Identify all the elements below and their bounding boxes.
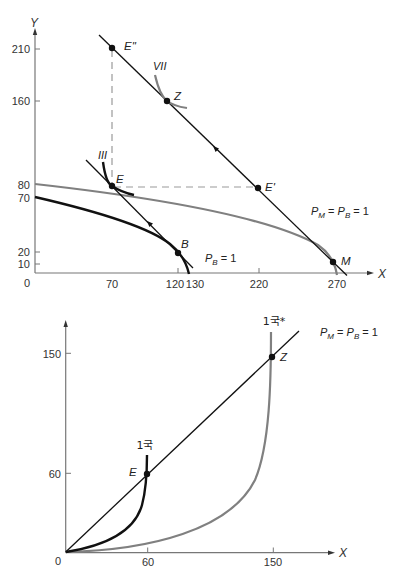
- point-b: [175, 250, 181, 256]
- point-e: [144, 471, 150, 477]
- figure-canvas: Y X 210 160 80 70 20 10 0 70 120 130 220…: [0, 0, 400, 582]
- x-tick-label: 70: [106, 278, 118, 290]
- country-1-label: 1국: [137, 439, 154, 452]
- x-tick-label: 60: [142, 556, 154, 568]
- y-tick-label: 160: [12, 95, 30, 107]
- point-e-prime: [255, 185, 261, 191]
- point-label: E': [265, 181, 276, 193]
- x-tick-label: 130: [186, 278, 204, 290]
- point-z: [164, 98, 170, 104]
- point-m: [330, 259, 336, 265]
- point-label: M: [341, 255, 351, 267]
- y-tick-label: 10: [18, 258, 30, 270]
- x-axis-label: X: [338, 546, 348, 560]
- origin-label: 0: [55, 555, 61, 567]
- point-e: [109, 183, 115, 189]
- y-tick-label: 20: [18, 246, 30, 258]
- x-axis-label: X: [377, 267, 387, 281]
- country-1-star-label: 1국*: [263, 315, 286, 328]
- y-tick-label: 60: [49, 468, 61, 480]
- y-tick-label: 210: [12, 43, 30, 55]
- y-axis-label: Y: [30, 16, 39, 30]
- origin-label: 0: [24, 277, 30, 289]
- point-label: E: [116, 173, 124, 185]
- indifference-label-iii: III: [98, 149, 107, 161]
- background: [0, 0, 400, 582]
- x-tick-label: 120: [166, 278, 184, 290]
- y-tick-label: 70: [18, 192, 30, 204]
- x-tick-label: 220: [250, 278, 268, 290]
- point-label: B: [181, 238, 189, 250]
- point-e-double-prime: [109, 45, 115, 51]
- x-tick-label: 270: [328, 278, 346, 290]
- point-z: [269, 354, 275, 360]
- point-label: Z: [279, 351, 288, 363]
- y-tick-label: 80: [18, 179, 30, 191]
- y-tick-label: 150: [43, 348, 61, 360]
- point-label: E: [129, 466, 137, 478]
- point-label: E'': [124, 40, 137, 52]
- indifference-label-vii: VII: [153, 60, 166, 72]
- point-label: Z: [173, 90, 182, 102]
- x-tick-label: 150: [264, 556, 282, 568]
